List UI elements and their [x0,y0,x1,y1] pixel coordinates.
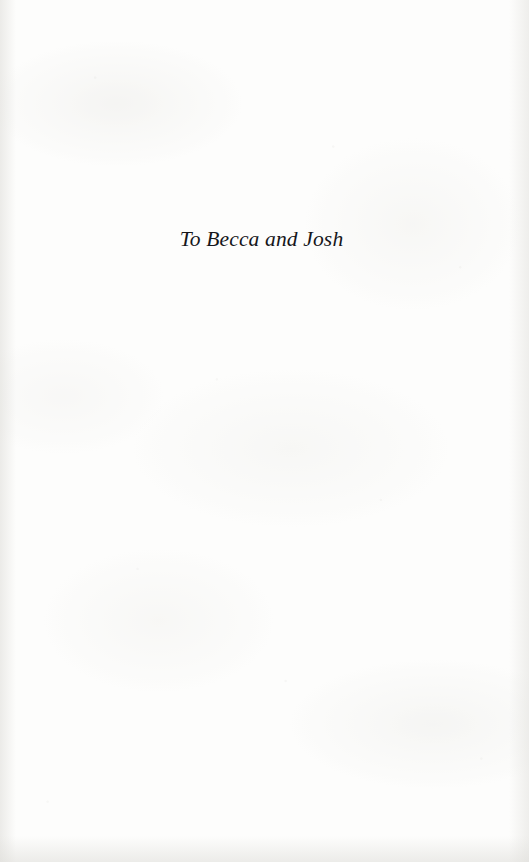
paper-grain-texture [0,0,529,862]
dedication-text: To Becca and Josh [0,226,529,252]
page-bottom-edge-shading [0,836,529,862]
scanned-book-page: To Becca and Josh [0,0,529,862]
page-right-edge-shading [509,0,529,862]
paper-speckle-texture [0,0,529,862]
page-left-edge-shading [0,0,16,862]
